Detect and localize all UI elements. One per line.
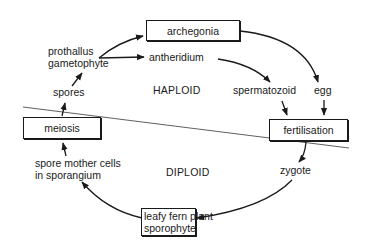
archegonia-label: archegonia [167, 25, 219, 37]
sporophyte-box: leafy fern plant sporophyte [141, 208, 196, 236]
arrow-archegonia-to-egg [240, 31, 318, 82]
arrow-fertilisation-to-zygote [299, 142, 306, 162]
arrow-sporophyte-to-spore-mother-cells [82, 182, 142, 218]
arrow-spores-to-gametophyte [72, 73, 82, 86]
egg-label: egg [314, 84, 332, 96]
gametophyte-text: gametophyte [48, 57, 109, 69]
spore-mother-cells-label: spore mother cells in sporangium [35, 157, 121, 181]
arrow-spermatozoid-to-fertilisation [282, 101, 287, 115]
arrow-antheridium-to-spermatozoid [218, 59, 270, 82]
prothallus-gametophyte-label: prothallus gametophyte [48, 45, 109, 69]
prothallus-text: prothallus [48, 45, 109, 57]
archegonia-box: archegonia [146, 20, 240, 41]
fertilisation-label: fertilisation [283, 124, 333, 136]
diploid-region-label: DIPLOID [166, 166, 209, 178]
spermatozoid-label: spermatozoid [233, 84, 296, 96]
meiosis-box: meiosis [23, 117, 101, 139]
spore-mother-cells-line2: in sporangium [35, 169, 121, 181]
haploid-region-label: HAPLOID [153, 84, 201, 96]
sporophyte-label-line1: leafy fern plant [144, 210, 194, 222]
sporophyte-label-line2: sporophyte [144, 222, 194, 234]
spores-label: spores [53, 86, 85, 98]
arrow-meiosis-to-spores [62, 103, 65, 116]
antheridium-label: antheridium [149, 51, 204, 63]
meiosis-label: meiosis [44, 122, 80, 134]
arrow-spore-mother-cells-to-meiosis [63, 143, 66, 156]
spore-mother-cells-line1: spore mother cells [35, 157, 121, 169]
zygote-label: zygote [280, 164, 311, 176]
fertilisation-box: fertilisation [269, 119, 348, 141]
fern-life-cycle-diagram: archegonia meiosis fertilisation leafy f… [0, 0, 365, 251]
